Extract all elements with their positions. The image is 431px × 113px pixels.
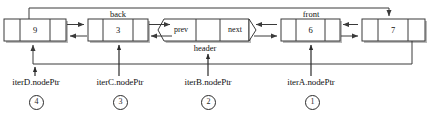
node-9-value: 9 <box>20 26 50 35</box>
node-6-value: 6 <box>296 26 325 35</box>
iterC-step-number: 3 <box>113 95 128 110</box>
node-3-value: 3 <box>103 26 133 35</box>
linked-list-diagram: 9 back 3 prev next header front 6 7 iter… <box>0 0 431 113</box>
iterD-step-number: 4 <box>29 95 44 110</box>
iterA-pointer-label: iterA.nodePtr <box>275 78 347 87</box>
iterator-arrows <box>35 45 311 76</box>
iterA-step-number: 1 <box>305 95 320 110</box>
node-7-value: 7 <box>378 26 408 35</box>
node-6-top-label: front <box>286 10 336 19</box>
iterB-step-number: 2 <box>201 95 216 110</box>
iterC-pointer-label: iterC.nodePtr <box>84 78 156 87</box>
header-prev-cell: prev <box>166 26 196 34</box>
iterD-pointer-label: iterD.nodePtr <box>0 78 72 87</box>
diagram-canvas <box>0 0 431 113</box>
header-next-cell: next <box>220 26 250 34</box>
node-header-bottom-label: header <box>180 44 230 53</box>
node-3-top-label: back <box>93 10 143 19</box>
iterB-pointer-label: iterB.nodePtr <box>172 78 244 87</box>
